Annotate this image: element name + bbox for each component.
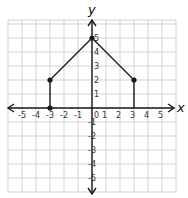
x-tick-label: -1 <box>74 111 82 120</box>
x-tick-label: 3 <box>130 111 135 120</box>
y-tick-label: 1 <box>94 90 99 99</box>
y-tick-label: 3 <box>94 62 99 71</box>
data-point <box>47 77 52 82</box>
y-tick-label: -1 <box>88 118 96 127</box>
y-tick-label: 2 <box>94 76 99 85</box>
x-tick-label: -4 <box>32 111 40 120</box>
x-tick-label: 5 <box>158 111 163 120</box>
x-axis-label: x <box>176 100 185 115</box>
coordinate-plane: x y -5-4-3-2-1012345-5-4-3-2-112345 <box>0 0 188 198</box>
y-axis-label: y <box>87 2 96 17</box>
x-tick-label: 4 <box>144 111 149 120</box>
data-point <box>131 77 136 82</box>
x-tick-label: -3 <box>46 111 54 120</box>
y-tick-label: -4 <box>88 160 96 169</box>
data-point <box>47 105 52 110</box>
y-tick-label: -5 <box>88 174 96 183</box>
y-tick-label: -3 <box>88 146 96 155</box>
x-tick-label: 2 <box>116 111 121 120</box>
x-tick-label: 1 <box>102 111 107 120</box>
data-point <box>89 35 94 40</box>
x-tick-label: -5 <box>18 111 26 120</box>
y-tick-label: 4 <box>94 48 99 57</box>
y-tick-label: -2 <box>88 132 96 141</box>
x-tick-label: -2 <box>60 111 68 120</box>
